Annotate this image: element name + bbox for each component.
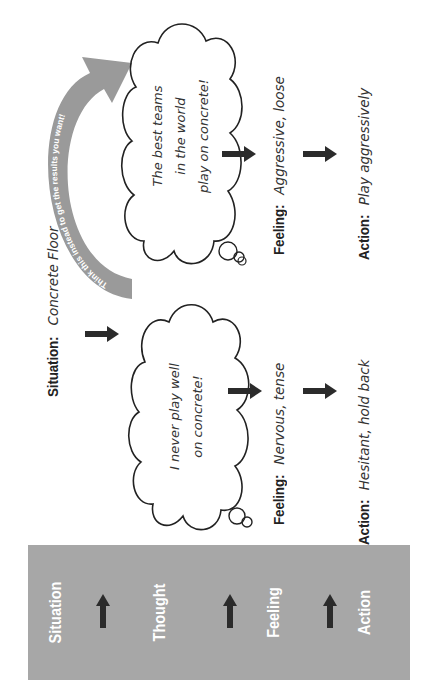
summary-panel: Situation Thought Feeling Action: [28, 545, 410, 680]
action-label: Action:: [355, 500, 372, 545]
panel-label-feeling: Feeling: [264, 555, 284, 670]
panel-label-thought: Thought: [150, 555, 170, 670]
thought-line: in the world: [169, 31, 192, 241]
arrow-right-icon: [323, 594, 337, 628]
action-row-positive: Action: Play aggressively: [355, 88, 373, 260]
action-row-negative: Action: Hesitant, hold back: [355, 360, 373, 545]
arrow-down-icon: [303, 383, 337, 399]
thought-text-negative: I never play well on concrete!: [163, 319, 209, 514]
thought-line: I never play well: [163, 319, 186, 514]
feeling-label: Feeling:: [270, 475, 287, 525]
arrow-down-icon: [303, 146, 337, 162]
action-value: Hesitant, hold back: [356, 360, 372, 491]
action-value: Play aggressively: [356, 88, 372, 206]
arrow-right-icon: [223, 594, 237, 628]
feeling-row-negative: Feeling: Nervous, tense: [270, 363, 288, 525]
situation-label: Situation:: [44, 337, 61, 397]
panel-label-action: Action: [355, 555, 375, 670]
thought-line: on concrete!: [186, 319, 209, 514]
feeling-row-positive: Feeling: Aggressive, loose: [270, 76, 288, 255]
feeling-value: Aggressive, loose: [271, 76, 287, 195]
thought-line: The best teams: [146, 31, 169, 241]
arrow-down-icon: [222, 146, 256, 162]
feeling-label: Feeling:: [270, 205, 287, 255]
action-label: Action:: [355, 215, 372, 260]
arrow-down-icon: [228, 383, 262, 399]
thought-line: play on concrete!: [192, 31, 215, 241]
thought-text-positive: The best teams in the world play on conc…: [146, 31, 215, 241]
feeling-value: Nervous, tense: [271, 363, 287, 465]
arrow-down-icon: [85, 326, 119, 342]
diagram-frame: Situation Thought Feeling Action Situati…: [0, 0, 427, 699]
panel-label-situation: Situation: [46, 555, 66, 670]
arrow-right-icon: [96, 594, 110, 628]
